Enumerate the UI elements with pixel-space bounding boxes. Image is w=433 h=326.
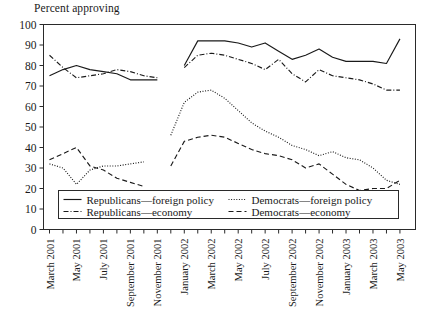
- legend-label-1: Democrats—foreign policy: [252, 194, 373, 206]
- x-axis-tick-label: March 2001: [45, 239, 56, 290]
- y-axis-tick-label: 100: [19, 19, 37, 31]
- x-axis-tick-group: [50, 230, 400, 234]
- x-axis-tick-label: November 2001: [152, 239, 163, 307]
- y-axis-tick-group: 0102030405060708090100: [19, 19, 43, 236]
- x-axis-tick-label: September 2001: [125, 239, 136, 308]
- series-line-3: [50, 148, 144, 187]
- y-axis-tick-label: 90: [25, 39, 37, 51]
- y-axis-tick-label: 80: [25, 60, 37, 72]
- x-axis-tick-label: July 2002: [260, 239, 271, 280]
- series-line-2: [50, 162, 144, 185]
- series-line-1: [50, 55, 158, 78]
- x-axis-tick-label: January 2003: [341, 239, 352, 295]
- series-line-0: [184, 39, 400, 66]
- x-axis-label-group: March 2001May 2001July 2001September 200…: [45, 239, 406, 308]
- y-axis-tick-label: 10: [25, 203, 37, 215]
- x-axis-tick-label: May 2001: [71, 239, 82, 282]
- x-axis-tick-label: May 2003: [395, 239, 406, 282]
- x-axis-tick-label: May 2002: [233, 239, 244, 282]
- y-axis-tick-label: 50: [25, 121, 37, 133]
- chart-plot-svg: 0102030405060708090100 March 2001May 200…: [0, 0, 433, 326]
- x-axis-tick-label: September 2002: [287, 239, 298, 308]
- y-axis-tick-label: 0: [31, 224, 37, 236]
- y-axis-tick-label: 60: [25, 101, 37, 113]
- y-axis-tick-label: 30: [25, 162, 37, 174]
- series-line-2: [171, 90, 400, 184]
- legend-label-2: Republicans—economy: [87, 206, 193, 218]
- x-axis-tick-label: January 2002: [179, 239, 190, 295]
- chart-legend: Republicans—foreign policyDemocrats—fore…: [59, 191, 399, 219]
- y-axis-tick-label: 20: [25, 183, 37, 195]
- chart-container: Percent approving 0102030405060708090100…: [0, 0, 433, 326]
- series-line-0: [50, 66, 158, 80]
- y-axis-tick-label: 70: [25, 80, 37, 92]
- series-line-3: [171, 135, 400, 190]
- x-axis-tick-label: March 2003: [368, 239, 379, 290]
- x-axis-tick-label: July 2001: [98, 239, 109, 280]
- legend-label-3: Democrats—economy: [252, 206, 351, 218]
- legend-label-0: Republicans—foreign policy: [87, 194, 215, 206]
- x-axis-tick-label: November 2002: [314, 239, 325, 307]
- y-axis-tick-label: 40: [25, 142, 37, 154]
- series-group: [50, 39, 400, 191]
- x-axis-tick-label: March 2002: [206, 239, 217, 290]
